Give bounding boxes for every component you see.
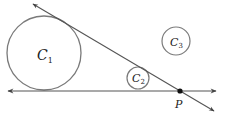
svg-text:C3: C3 (170, 36, 183, 50)
point-p-dot (177, 88, 182, 93)
svg-text:C2: C2 (132, 72, 145, 86)
svg-text:C1: C1 (37, 47, 53, 65)
tangent-line (33, 4, 214, 111)
c1-subscript: 1 (48, 56, 53, 65)
c2-subscript: 2 (140, 78, 144, 86)
circle-c1: C1 (7, 16, 81, 90)
tangent-circles-diagram: C1 C2 C3 P (0, 0, 225, 115)
circle-c3: C3 (162, 27, 190, 55)
c1-label: C (37, 47, 48, 63)
point-p-label: P (174, 98, 183, 111)
c3-subscript: 3 (178, 42, 182, 50)
